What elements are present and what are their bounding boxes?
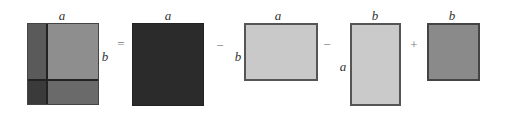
label-b-right: b (102, 50, 109, 63)
figure-border (27, 23, 99, 105)
plus-sign: + (410, 38, 417, 51)
equals-sign: = (117, 37, 124, 50)
rect-b-by-a-fill (350, 23, 401, 106)
label-a-top: a (275, 9, 282, 22)
label-a-top: a (59, 9, 66, 22)
label-a-left: a (340, 60, 347, 73)
label-b-top: b (372, 9, 379, 22)
square-a-fill (132, 23, 204, 106)
label-b-left: b (235, 50, 242, 63)
area-diagram: a b = a − a b − b a + b (0, 0, 505, 116)
rect-a-by-b-fill (244, 23, 318, 81)
label-b-top: b (449, 9, 456, 22)
minus-sign-2: − (323, 38, 330, 51)
square-b-fill (427, 23, 480, 81)
minus-sign-1: − (216, 39, 223, 52)
label-a-top: a (165, 9, 172, 22)
